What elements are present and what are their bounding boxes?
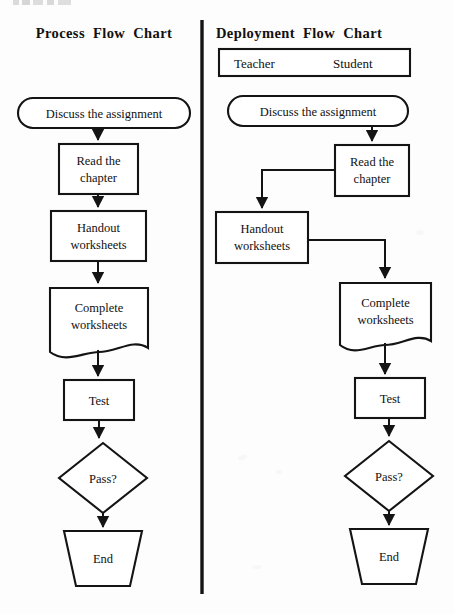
node-discuss-the-assignment: Discuss the assignment: [18, 98, 190, 128]
node-label-line1: Read the: [76, 154, 121, 168]
node-complete-worksheets: Complete worksheets: [340, 283, 431, 350]
rectangle-shape: [335, 145, 409, 196]
lane-label-teacher: Teacher: [234, 56, 276, 71]
node-pass-decision: Pass?: [59, 443, 147, 513]
node-test: Test: [355, 378, 425, 418]
node-label: Pass?: [375, 470, 403, 484]
node-label: Test: [380, 392, 401, 406]
node-label-line1: Handout: [77, 221, 121, 235]
left-chart-title: Process Flow Chart: [36, 25, 173, 41]
node-read-the-chapter: Read the chapter: [335, 145, 409, 196]
lane-label-student: Student: [333, 56, 373, 71]
node-pass-decision: Pass?: [345, 441, 433, 511]
rectangle-shape: [216, 212, 308, 263]
node-end: End: [350, 529, 428, 584]
node-handout-worksheets: Handout worksheets: [51, 211, 146, 261]
node-label-line2: worksheets: [70, 238, 126, 252]
rectangle-shape: [51, 211, 146, 261]
node-label-line1: Complete: [75, 301, 124, 315]
node-label-line1: Complete: [361, 296, 410, 310]
node-label-line2: chapter: [354, 172, 392, 186]
right-chart-title: Deployment Flow Chart: [216, 25, 382, 41]
flowchart-canvas: Process Flow Chart Discuss the assignmen…: [0, 0, 454, 614]
node-label: End: [93, 552, 114, 566]
flowchart-figure: Process Flow Chart Discuss the assignmen…: [0, 0, 454, 614]
node-label: Test: [89, 394, 110, 408]
node-label: End: [379, 550, 400, 564]
node-label-line2: worksheets: [357, 313, 413, 327]
node-end: End: [64, 531, 142, 586]
edge-read-to-handout: [262, 170, 335, 208]
node-label: Discuss the assignment: [46, 107, 163, 121]
cropped-text-fragment: [13, 0, 79, 5]
node-read-the-chapter: Read the chapter: [59, 144, 138, 194]
node-label-line2: worksheets: [71, 318, 127, 332]
node-complete-worksheets: Complete worksheets: [50, 288, 148, 357]
rectangle-shape: [59, 144, 138, 194]
node-label: Pass?: [89, 472, 117, 486]
swimlane-header: Teacher Student: [219, 49, 410, 76]
right-chart-group: Deployment Flow Chart Teacher Student Di…: [216, 25, 433, 584]
node-discuss-the-assignment: Discuss the assignment: [228, 96, 408, 126]
left-chart-group: Process Flow Chart Discuss the assignmen…: [18, 25, 190, 586]
node-label: Discuss the assignment: [260, 105, 377, 119]
node-handout-worksheets: Handout worksheets: [216, 212, 308, 263]
node-label-line1: Read the: [350, 155, 395, 169]
node-label-line1: Handout: [240, 222, 284, 236]
node-label-line2: worksheets: [234, 239, 290, 253]
node-label-line2: chapter: [80, 171, 118, 185]
edge-handout-to-complete: [308, 240, 385, 278]
node-test: Test: [64, 380, 134, 420]
